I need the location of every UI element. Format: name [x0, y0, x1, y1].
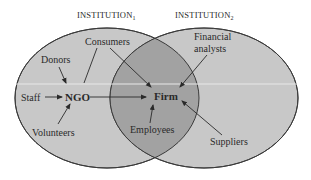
label-employees: Employees: [130, 124, 175, 135]
label-suppliers: Suppliers: [210, 136, 248, 147]
label-financial-analysts: Financialanalysts: [194, 31, 231, 54]
venn-diagram: INSTITUTION1 INSTITUTION2 Consumers Dono…: [0, 0, 311, 180]
label-donors: Donors: [41, 54, 71, 65]
label-consumers: Consumers: [85, 36, 130, 47]
institution-2-title: INSTITUTION2: [175, 10, 234, 21]
label-volunteers: Volunteers: [32, 127, 75, 138]
label-staff: Staff: [21, 92, 41, 103]
node-ngo: NGO: [65, 91, 91, 103]
institution-1-title: INSTITUTION1: [77, 10, 136, 21]
node-firm: Firm: [154, 90, 178, 102]
